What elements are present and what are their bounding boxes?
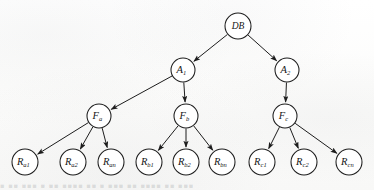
tree-node-fc[interactable]: Fc [273, 104, 297, 128]
tree-edge-fb-to-rb1 [158, 126, 178, 151]
tree-node-rcn[interactable]: Rcn [336, 149, 362, 175]
tree-edge-db-to-a1 [194, 34, 228, 61]
node-label-subscript: bn [220, 161, 227, 168]
tree-edge-fa-to-ra2 [80, 127, 92, 149]
tree-node-ra2[interactable]: Ra2 [60, 149, 86, 175]
tree-edge-fa-to-ra1 [38, 123, 89, 154]
tree-node-rbn[interactable]: Rbn [209, 149, 235, 175]
node-label-subscript: c1 [261, 161, 267, 168]
tree-node-rb2[interactable]: Rb2 [173, 149, 199, 175]
node-label-subscript: cn [348, 161, 354, 168]
tree-node-rc1[interactable]: Rc1 [249, 149, 275, 175]
tree-edge-fc-to-rc1 [269, 127, 280, 148]
node-label-subscript: c [285, 115, 288, 122]
node-label-db: DB [231, 21, 245, 31]
tree-node-fb[interactable]: Fb [174, 104, 198, 128]
node-label-subscript: a2 [71, 161, 78, 168]
tree-node-rb1[interactable]: Rb1 [136, 149, 162, 175]
node-layer: DBA1A2FaFbFcRa1Ra2RanRb1Rb2RbnRc1Rc2Rcn [12, 13, 362, 175]
tree-graph: DBA1A2FaFbFcRa1Ra2RanRb1Rb2RbnRc1Rc2Rcn [0, 0, 374, 190]
tree-node-a2[interactable]: A2 [275, 58, 299, 82]
tree-node-fa[interactable]: Fa [87, 104, 111, 128]
node-label-base: DB [231, 21, 245, 31]
tree-node-rc2[interactable]: Rc2 [291, 149, 317, 175]
tree-node-ran[interactable]: Ran [98, 149, 124, 175]
tree-edge-a2-to-fc [286, 82, 287, 102]
node-label-subscript: b2 [184, 161, 191, 168]
tree-edge-a1-to-fa [111, 76, 172, 109]
tree-edge-fb-to-rbn [194, 126, 213, 150]
node-label-subscript: b1 [147, 161, 154, 168]
tree-edge-db-to-a2 [248, 35, 277, 61]
tree-diagram-figure: ■ ■■ ■■■ ■ ■■ ■■■■ ■■ ■ ■■■ ■■ ■■■■ ■■ ■… [0, 0, 374, 190]
tree-node-a1[interactable]: A1 [171, 58, 195, 82]
node-label-subscript: 1 [183, 69, 186, 76]
tree-edge-a1-to-fb [184, 82, 185, 102]
tree-edge-fa-to-ran [102, 128, 107, 147]
node-label-subscript: an [109, 161, 116, 168]
edge-layer [38, 34, 337, 154]
node-label-subscript: c2 [303, 161, 310, 168]
tree-edge-fc-to-rc2 [290, 128, 299, 149]
tree-node-db[interactable]: DB [225, 13, 251, 39]
node-label-subscript: a1 [23, 161, 30, 168]
tree-node-ra1[interactable]: Ra1 [12, 149, 38, 175]
node-label-subscript: a [99, 115, 102, 122]
